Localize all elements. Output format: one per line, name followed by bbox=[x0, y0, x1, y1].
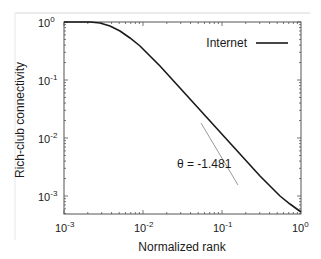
x-axis-title: Normalized rank bbox=[138, 240, 226, 254]
x-tick-labels: 10-3 10-2 10-1 100 bbox=[55, 220, 309, 234]
y-axis-title: Rich-club connectivity bbox=[13, 62, 27, 178]
series-line-internet bbox=[64, 22, 301, 212]
x-tick-label: 10-2 bbox=[134, 220, 154, 234]
legend-label: Internet bbox=[206, 36, 247, 50]
x-tick-label: 10-1 bbox=[213, 220, 233, 234]
slope-annotation: θ = -1.481 bbox=[177, 157, 232, 171]
y-tick-labels: 100 10-1 10-2 10-3 bbox=[38, 15, 58, 203]
axis-ticks bbox=[64, 22, 301, 214]
x-tick-label: 10-3 bbox=[55, 220, 75, 234]
x-tick-label: 100 bbox=[292, 220, 309, 234]
chart: 100 10-1 10-2 10-3 10-3 10-2 10-1 100 No… bbox=[0, 0, 321, 259]
y-tick-label: 10-2 bbox=[38, 131, 58, 145]
y-tick-label: 10-3 bbox=[38, 189, 58, 203]
y-tick-label: 10-1 bbox=[38, 73, 58, 87]
y-tick-label: 100 bbox=[38, 15, 55, 29]
plot-frame bbox=[64, 22, 301, 214]
legend: Internet bbox=[206, 36, 288, 50]
